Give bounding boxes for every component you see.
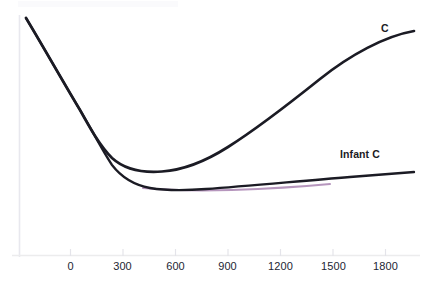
series-label-infant-c: Infant C <box>340 148 380 160</box>
series-line-infant-c <box>26 18 414 190</box>
chart-container: 0 300 600 900 1200 1500 1800 C Infant C <box>0 0 424 294</box>
x-tick-label-1800: 1800 <box>369 260 402 272</box>
x-tick-label-0: 0 <box>56 260 85 272</box>
x-tick-label-300: 300 <box>108 260 137 272</box>
x-tick-label-1500: 1500 <box>317 260 350 272</box>
series-label-c: C <box>381 22 389 34</box>
x-tick-label-1200: 1200 <box>264 260 297 272</box>
x-tick-label-900: 900 <box>213 260 242 272</box>
x-tick-label-600: 600 <box>161 260 190 272</box>
chart-plot-area <box>0 0 424 294</box>
